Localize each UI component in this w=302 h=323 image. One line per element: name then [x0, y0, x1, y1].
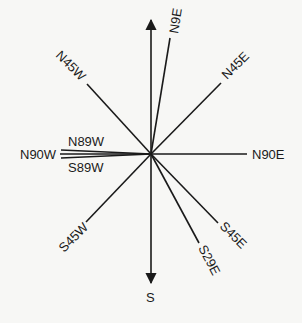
- bearing-diagram: S N9E N45E N90E S45E S29E S45W S89W N90W…: [0, 0, 302, 323]
- bearing-label-n89w: N89W: [68, 134, 105, 149]
- bearing-label-s45w: S45W: [56, 219, 92, 255]
- bearing-label-n90w: N90W: [20, 147, 57, 162]
- bearing-label-n9e: N9E: [166, 7, 185, 35]
- bearing-label-s89w: S89W: [68, 160, 104, 175]
- south-label: S: [146, 290, 155, 305]
- bearing-label-s29e: S29E: [195, 242, 223, 277]
- bearing-line-s45e: [151, 154, 218, 223]
- bearing-label-n45e: N45E: [219, 48, 253, 82]
- bearing-label-n90e: N90E: [252, 147, 285, 162]
- bearing-label-s45e: S45E: [217, 219, 250, 252]
- bearing-line-s29e: [151, 154, 199, 243]
- bearing-label-n45w: N45W: [53, 48, 90, 85]
